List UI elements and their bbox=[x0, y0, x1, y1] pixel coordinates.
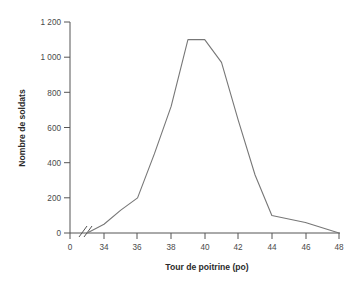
y-tick-label-200: 200 bbox=[47, 194, 61, 203]
chart-figure: TOUR DE POITRINE DES SOLDATS 1 200 1 000… bbox=[0, 0, 354, 282]
x-axis-ticks bbox=[70, 233, 339, 239]
data-series-line bbox=[87, 40, 339, 233]
x-tick-label-40: 40 bbox=[200, 243, 210, 252]
y-axis-title: Nombre de soldats bbox=[17, 89, 27, 167]
y-tick-label-1200: 1 200 bbox=[41, 18, 62, 27]
x-tick-label-48: 48 bbox=[334, 243, 344, 252]
y-axis-tick-labels: 1 200 1 000 800 600 400 200 0 bbox=[41, 18, 62, 238]
x-tick-label-42: 42 bbox=[233, 243, 243, 252]
y-tick-label-800: 800 bbox=[47, 89, 61, 98]
y-tick-label-400: 400 bbox=[47, 159, 61, 168]
x-axis-title: Tour de poitrine (po) bbox=[165, 262, 249, 272]
x-tick-label-44: 44 bbox=[267, 243, 277, 252]
x-tick-label-34: 34 bbox=[99, 243, 109, 252]
y-tick-label-0: 0 bbox=[56, 229, 61, 238]
x-tick-label-0: 0 bbox=[68, 243, 73, 252]
y-tick-label-1000: 1 000 bbox=[41, 53, 62, 62]
x-axis-tick-labels: 0 34 36 38 40 42 44 46 48 bbox=[68, 243, 344, 252]
frequency-polygon-chart: 1 200 1 000 800 600 400 200 0 0 bbox=[0, 0, 354, 282]
x-tick-label-36: 36 bbox=[132, 243, 142, 252]
x-tick-label-46: 46 bbox=[301, 243, 311, 252]
y-tick-label-600: 600 bbox=[47, 124, 61, 133]
x-tick-label-38: 38 bbox=[166, 243, 176, 252]
y-axis-ticks bbox=[64, 22, 70, 233]
